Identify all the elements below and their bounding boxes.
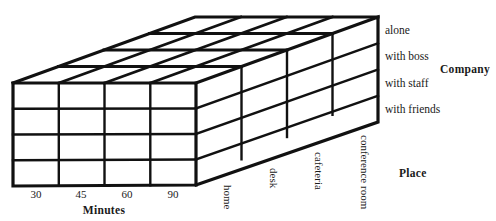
company-tick-with-boss: with boss <box>385 50 429 62</box>
company-tick-with-staff: with staff <box>385 77 429 89</box>
place-tick-desk: desk <box>268 168 280 189</box>
minutes-tick-90: 90 <box>168 188 180 200</box>
cube-svg: alone with boss with staff with friends … <box>0 0 496 221</box>
front-grid-hline-2 <box>13 134 196 135</box>
minutes-tick-60: 60 <box>122 188 134 200</box>
place-tick-home: home <box>222 185 234 210</box>
front-grid-hline-3 <box>13 160 196 161</box>
place-axis-title: Place <box>399 167 427 179</box>
minutes-tick-30: 30 <box>31 188 43 200</box>
company-axis-title: Company <box>440 63 490 76</box>
data-cube-diagram: alone with boss with staff with friends … <box>0 0 496 221</box>
place-tick-cafeteria: cafeteria <box>313 152 325 190</box>
minutes-axis-title: Minutes <box>83 204 126 216</box>
company-tick-alone: alone <box>385 24 410 36</box>
company-axis-labels: alone with boss with staff with friends … <box>385 24 490 115</box>
company-tick-with-friends: with friends <box>385 103 441 115</box>
minutes-tick-45: 45 <box>76 188 88 200</box>
place-tick-conference-room: conference room <box>359 135 371 210</box>
minutes-axis-labels: 30 45 60 90 Minutes <box>31 188 180 216</box>
